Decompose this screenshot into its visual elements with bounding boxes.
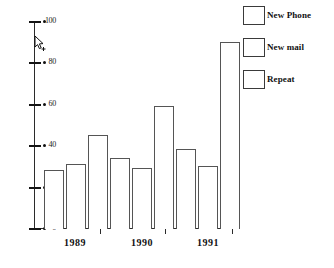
y-tick-dot	[43, 103, 46, 106]
legend-item-new-mail: New mail	[243, 38, 334, 60]
bar-1991-new-phone	[176, 149, 196, 229]
y-tick-dot	[43, 20, 46, 23]
bar-1989-new-phone	[44, 170, 64, 229]
bar-1989-repeat	[88, 135, 108, 229]
y-axis-line	[34, 21, 35, 229]
legend-label-new-phone: New Phone	[267, 10, 311, 20]
mouse-pointer-icon	[34, 36, 48, 52]
x-axis-label-1989: 1989	[50, 238, 100, 248]
x-axis-label-1990: 1990	[117, 238, 167, 248]
chart-legend: New Phone New mail Repeat	[243, 6, 334, 102]
x-tick-separator	[232, 229, 233, 234]
legend-swatch-repeat	[243, 70, 265, 89]
bar-1990-repeat	[154, 106, 174, 229]
legend-item-new-phone: New Phone	[243, 6, 334, 28]
bar-1991-new-mail	[198, 166, 218, 229]
bar-chart-plot-area: 100 80 60 40 20 0	[0, 0, 240, 268]
x-tick-separator	[165, 229, 166, 234]
legend-swatch-new-phone	[243, 6, 265, 25]
y-tick-dot	[43, 144, 46, 147]
legend-item-repeat: Repeat	[243, 70, 334, 92]
x-tick-separator	[100, 229, 101, 234]
y-tick-dot	[43, 61, 46, 64]
legend-swatch-new-mail	[243, 38, 265, 57]
bar-1990-new-mail	[132, 168, 152, 229]
bar-1990-new-phone	[110, 158, 130, 229]
bar-1991-repeat	[220, 42, 240, 229]
bar-1989-new-mail	[66, 164, 86, 229]
x-axis-label-1991: 1991	[183, 238, 233, 248]
legend-label-new-mail: New mail	[267, 42, 304, 52]
legend-label-repeat: Repeat	[267, 74, 295, 84]
chart-screenshot: 100 80 60 40 20 0	[0, 0, 334, 268]
